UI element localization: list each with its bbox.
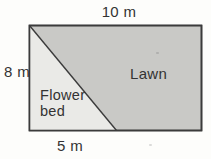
left-height-label: 8 m <box>4 64 30 80</box>
rectangle-diagram <box>0 0 211 159</box>
lawn-label: Lawn <box>130 66 167 82</box>
flower-bed-label: Flowerbed <box>40 87 85 119</box>
flower-bed-label-line2: bed <box>40 103 65 119</box>
bottom-segment-label: 5 m <box>50 138 90 154</box>
scan-speck <box>149 144 152 146</box>
top-width-label: 10 m <box>96 4 142 20</box>
scan-speck <box>156 52 159 54</box>
geometry-figure: 10 m 8 m Lawn Flowerbed 5 m <box>0 0 211 159</box>
flower-bed-label-line1: Flower <box>40 87 85 103</box>
